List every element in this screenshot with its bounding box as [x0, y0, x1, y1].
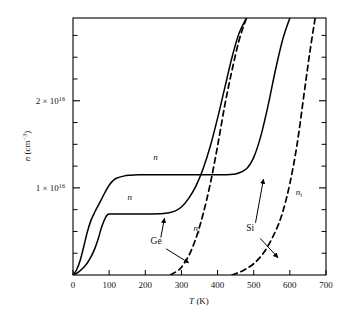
- carrier-concentration-vs-temperature-chart: 0100200300400500600700 1 × 10162 × 1016 …: [0, 0, 345, 318]
- y-axis-tick-labels: 1 × 10162 × 1016: [36, 95, 65, 194]
- ni-si-label: ni: [296, 187, 303, 199]
- ge-label: Ge: [151, 236, 162, 246]
- x-tick-label-500: 500: [247, 280, 261, 290]
- x-tick-label-200: 200: [139, 280, 153, 290]
- x-tick-label-100: 100: [102, 280, 116, 290]
- curve-si-ni: [232, 18, 315, 275]
- y-tick-label-0: 1 × 1016: [36, 182, 65, 193]
- x-axis-label: T (K): [189, 296, 209, 306]
- x-tick-label-0: 0: [71, 280, 76, 290]
- plot-frame: [73, 18, 326, 275]
- figure-container: 0100200300400500600700 1 × 10162 × 1016 …: [0, 0, 345, 318]
- x-tick-label-400: 400: [211, 280, 225, 290]
- si-label: Si: [246, 223, 254, 233]
- curve-ge-ni: [171, 18, 247, 275]
- annotation-labels: nnniniGeSi: [127, 152, 302, 246]
- curve-si-n: [73, 18, 290, 275]
- x-tick-label-700: 700: [319, 280, 333, 290]
- y-tick-label-1: 2 × 1016: [36, 95, 65, 106]
- data-curves: [73, 18, 315, 275]
- y-axis-ticks-left: [73, 35, 80, 253]
- x-axis-tick-labels: 0100200300400500600700: [71, 280, 334, 290]
- x-tick-label-300: 300: [175, 280, 189, 290]
- ni-ge-label: ni: [193, 223, 200, 235]
- si-to-n-arrow: [256, 179, 264, 223]
- n-ge-label: n: [127, 192, 132, 202]
- annotation-arrows: [161, 179, 278, 263]
- x-axis-ticks: [73, 270, 326, 275]
- y-axis-label: n (cm−3): [21, 131, 32, 161]
- x-tick-label-600: 600: [283, 280, 297, 290]
- ge-to-ni-arrow: [166, 249, 188, 263]
- y-axis-ticks-right: [319, 35, 326, 253]
- n-si-label: n: [153, 152, 158, 162]
